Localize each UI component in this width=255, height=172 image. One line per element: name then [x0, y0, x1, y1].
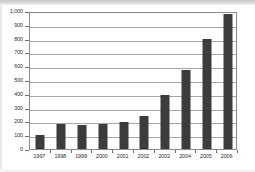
y-axis-tick-label: 300: [14, 106, 23, 111]
bar: [223, 14, 232, 149]
x-axis-tick-mark: [112, 150, 113, 153]
y-axis-tick-label: 800: [14, 37, 23, 42]
x-axis-tick-label: 2005: [195, 154, 216, 159]
x-axis-tick-mark: [216, 150, 217, 153]
x-axis-tick-mark: [50, 150, 51, 153]
y-axis-tick-label: 500: [14, 78, 23, 83]
y-axis-tick-label: 400: [14, 92, 23, 97]
x-axis-tick-mark: [237, 150, 238, 153]
bar-slot: [51, 13, 72, 149]
x-axis: 1997199819992000200120022003200420052006: [29, 154, 237, 168]
bar-slot: [176, 13, 197, 149]
bar: [161, 95, 170, 149]
bar-slot: [217, 13, 238, 149]
bar: [202, 39, 211, 149]
x-axis-tick-label: 1998: [50, 154, 71, 159]
bar: [98, 124, 107, 149]
bar: [77, 125, 86, 149]
x-axis-tick-label: 1999: [71, 154, 92, 159]
bar: [36, 135, 45, 149]
y-axis-tick-label: 0: [20, 147, 23, 152]
bar-slot: [155, 13, 176, 149]
bar: [140, 116, 149, 149]
y-axis-tick-label: 700: [14, 50, 23, 55]
bar-slot: [113, 13, 134, 149]
x-axis-tick-mark: [133, 150, 134, 153]
bar: [119, 122, 128, 149]
y-axis: 01002003004005006007008009001,000: [0, 0, 27, 172]
x-axis-tick-label: 1997: [29, 154, 50, 159]
x-axis-tick-mark: [175, 150, 176, 153]
bar: [181, 70, 190, 149]
bar-slot: [30, 13, 51, 149]
x-axis-tick-mark: [195, 150, 196, 153]
x-axis-tick-label: 2004: [175, 154, 196, 159]
y-axis-tick-label: 600: [14, 64, 23, 69]
y-axis-tick-label: 1,000: [10, 9, 23, 14]
bar-slot: [196, 13, 217, 149]
x-axis-tick-label: 2000: [91, 154, 112, 159]
x-axis-tick-mark: [91, 150, 92, 153]
x-axis-tick-mark: [71, 150, 72, 153]
x-axis-tick-label: 2001: [112, 154, 133, 159]
bar-series: [30, 13, 236, 149]
bar: [57, 124, 66, 149]
bar-chart-figure: 01002003004005006007008009001,000 199719…: [0, 0, 255, 172]
y-axis-tick-mark: [25, 150, 29, 151]
bar-slot: [134, 13, 155, 149]
plot-area: [29, 12, 237, 150]
x-axis-tick-label: 2002: [133, 154, 154, 159]
x-axis-tick-mark: [154, 150, 155, 153]
y-axis-tick-label: 200: [14, 119, 23, 124]
bar-slot: [92, 13, 113, 149]
x-axis-tick-label: 2003: [154, 154, 175, 159]
bar-slot: [72, 13, 93, 149]
y-axis-tick-label: 100: [14, 133, 23, 138]
y-axis-tick-label: 900: [14, 23, 23, 28]
x-axis-tick-label: 2006: [216, 154, 237, 159]
